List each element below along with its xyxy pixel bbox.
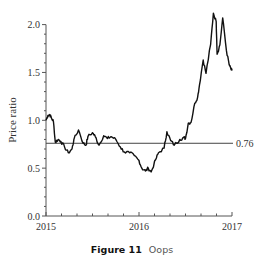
y-tick-label: 1.5 bbox=[28, 67, 41, 78]
price-ratio-series bbox=[46, 13, 232, 172]
y-axis-title: Price ratio bbox=[6, 97, 18, 143]
y-tick-label: 1.0 bbox=[28, 115, 41, 126]
y-tick-label: 0.0 bbox=[28, 211, 41, 222]
figure-label: Figure 11 bbox=[91, 244, 142, 255]
caption-text: Oops bbox=[149, 244, 173, 255]
y-tick-label: 0.5 bbox=[28, 163, 41, 174]
figure-caption: Figure 11 Oops bbox=[0, 244, 264, 255]
reference-line-label: 0.76 bbox=[236, 138, 254, 149]
reference-line: 0.76 bbox=[46, 138, 254, 149]
y-tick-label: 2.0 bbox=[28, 19, 41, 30]
x-tick-label: 2015 bbox=[36, 221, 56, 232]
x-tick-label: 2016 bbox=[129, 221, 149, 232]
line-chart: 0.00.51.01.52.0 201520162017 0.76 Price … bbox=[0, 0, 264, 240]
y-axis: 0.00.51.01.52.0 bbox=[28, 19, 47, 221]
x-axis: 201520162017 bbox=[36, 212, 242, 232]
x-tick-label: 2017 bbox=[222, 221, 242, 232]
